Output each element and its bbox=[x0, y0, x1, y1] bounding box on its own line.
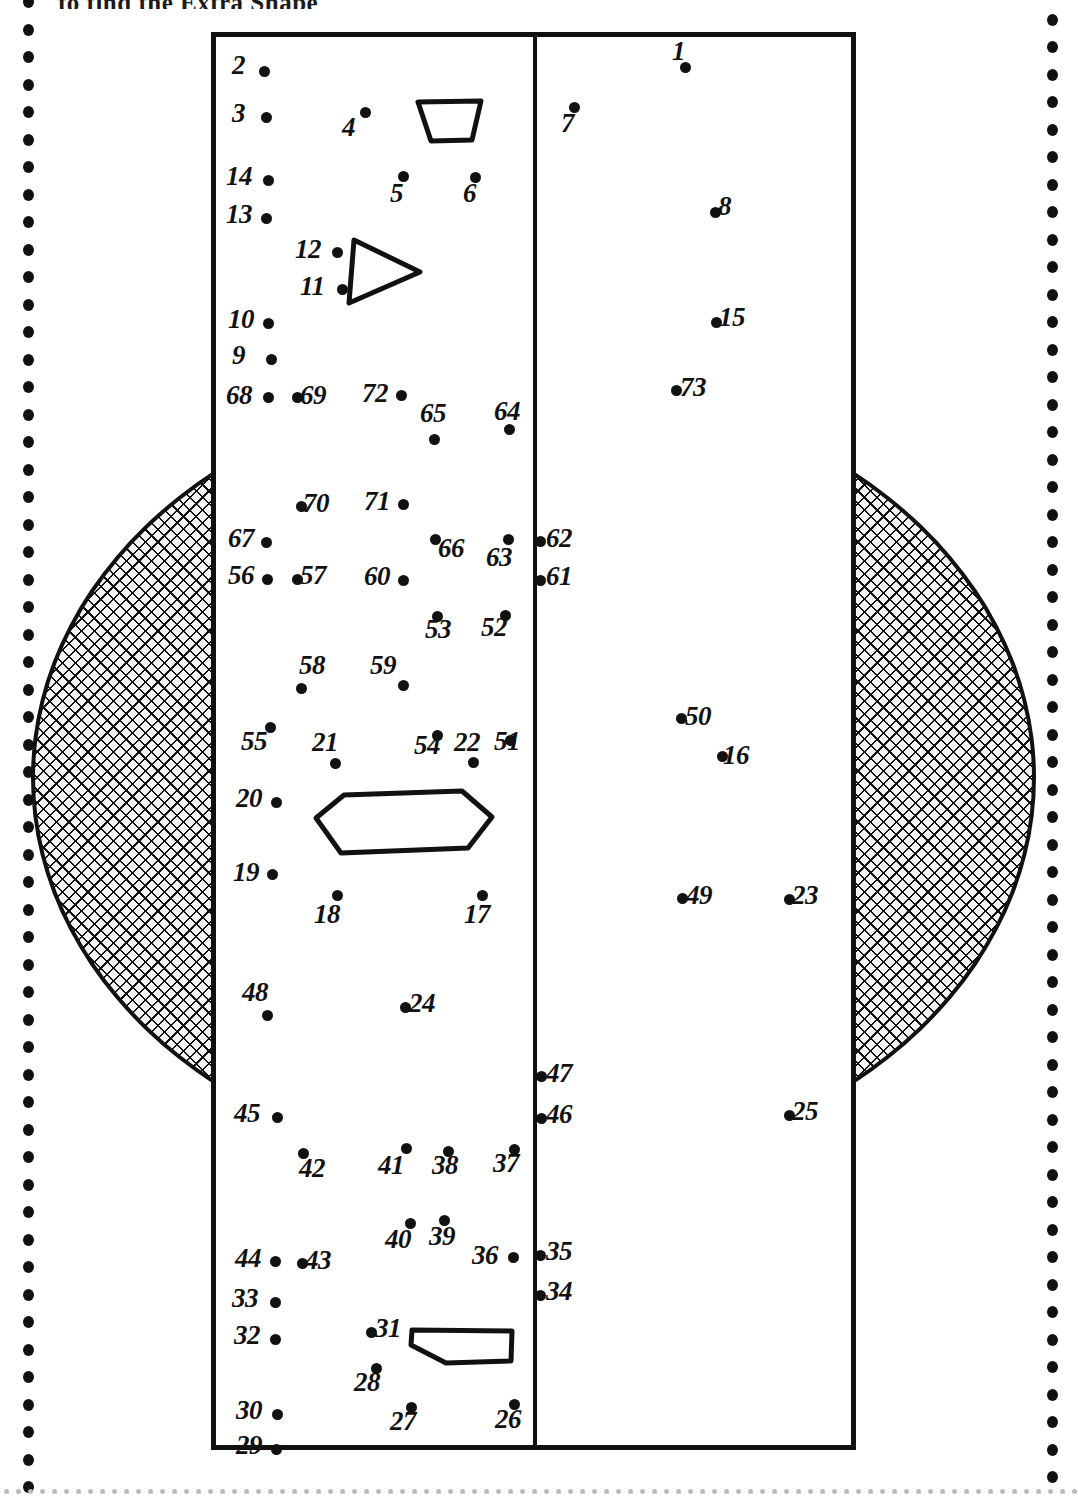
dot-number-label: 14 bbox=[226, 161, 252, 192]
dot-marker bbox=[263, 175, 274, 186]
dot-marker bbox=[261, 537, 272, 548]
dot-number-label: 24 bbox=[409, 988, 435, 1019]
dot-number-label: 12 bbox=[295, 234, 321, 265]
dot-marker bbox=[271, 797, 282, 808]
dot-number-label: 7 bbox=[561, 108, 574, 139]
dot-marker bbox=[266, 354, 277, 365]
dot-number-label: 68 bbox=[226, 380, 252, 411]
dot-number-label: 61 bbox=[546, 561, 572, 592]
dot-number-label: 10 bbox=[228, 304, 254, 335]
dot-number-label: 17 bbox=[464, 899, 490, 930]
dot-number-label: 41 bbox=[378, 1150, 404, 1181]
dot-marker bbox=[270, 1297, 281, 1308]
dot-number-label: 43 bbox=[305, 1245, 331, 1276]
dot-number-label: 67 bbox=[228, 523, 254, 554]
dot-number-label: 52 bbox=[481, 612, 507, 643]
dot-number-label: 58 bbox=[299, 650, 325, 681]
dot-number-label: 70 bbox=[303, 488, 329, 519]
dot-marker bbox=[262, 574, 273, 585]
dot-number-label: 66 bbox=[438, 533, 464, 564]
dot-number-label: 32 bbox=[234, 1320, 260, 1351]
dot-number-label: 65 bbox=[420, 398, 446, 429]
dot-number-label: 20 bbox=[236, 783, 262, 814]
dot-number-label: 55 bbox=[241, 726, 267, 757]
dot-marker bbox=[398, 575, 409, 586]
dot-marker bbox=[360, 107, 371, 118]
dot-number-label: 28 bbox=[354, 1367, 380, 1398]
dot-number-label: 40 bbox=[385, 1224, 411, 1255]
dot-number-label: 9 bbox=[232, 340, 245, 371]
dot-number-label: 35 bbox=[546, 1236, 572, 1267]
dot-number-label: 49 bbox=[686, 880, 712, 911]
dot-marker bbox=[267, 869, 278, 880]
dot-marker bbox=[535, 575, 546, 586]
dot-marker bbox=[259, 66, 270, 77]
dot-number-label: 37 bbox=[493, 1148, 519, 1179]
dot-marker bbox=[429, 434, 440, 445]
dot-number-label: 47 bbox=[546, 1058, 572, 1089]
dot-marker bbox=[330, 758, 341, 769]
dot-number-label: 22 bbox=[454, 727, 480, 758]
dot-marker bbox=[270, 1256, 281, 1267]
dot-number-label: 13 bbox=[226, 199, 252, 230]
dot-number-label: 73 bbox=[680, 372, 706, 403]
dot-number-label: 1 bbox=[672, 36, 685, 67]
dot-number-label: 23 bbox=[792, 880, 818, 911]
dot-marker bbox=[296, 683, 307, 694]
dot-number-label: 62 bbox=[546, 523, 572, 554]
dot-marker bbox=[263, 392, 274, 403]
dot-number-label: 71 bbox=[364, 486, 390, 517]
puzzle-page: to find the Extra Shape 1234567891011121… bbox=[0, 0, 1078, 1498]
dot-marker bbox=[261, 213, 272, 224]
dot-marker bbox=[535, 1290, 546, 1301]
dot-number-label: 63 bbox=[486, 542, 512, 573]
dot-marker bbox=[272, 1409, 283, 1420]
dot-number-label: 50 bbox=[685, 701, 711, 732]
dot-number-label: 33 bbox=[232, 1283, 258, 1314]
dot-marker bbox=[535, 536, 546, 547]
dot-number-label: 51 bbox=[494, 726, 520, 757]
dot-number-label: 19 bbox=[233, 857, 259, 888]
dot-number-label: 29 bbox=[236, 1430, 262, 1461]
dot-marker bbox=[270, 1334, 281, 1345]
dot-number-label: 57 bbox=[300, 560, 326, 591]
dot-number-label: 21 bbox=[312, 727, 338, 758]
dot-number-label: 46 bbox=[546, 1099, 572, 1130]
dot-marker bbox=[272, 1112, 283, 1123]
dot-number-label: 48 bbox=[242, 977, 268, 1008]
dot-marker bbox=[535, 1250, 546, 1261]
dot-number-label: 5 bbox=[390, 178, 403, 209]
drawn-shapes-layer bbox=[0, 0, 1078, 1498]
dot-number-label: 8 bbox=[718, 191, 731, 222]
dot-number-label: 54 bbox=[414, 730, 440, 761]
dot-number-label: 60 bbox=[364, 561, 390, 592]
dot-marker bbox=[271, 1444, 282, 1455]
dot-marker bbox=[261, 112, 272, 123]
dot-number-label: 39 bbox=[429, 1221, 455, 1252]
dot-marker bbox=[398, 680, 409, 691]
dot-number-label: 38 bbox=[432, 1150, 458, 1181]
dot-number-label: 59 bbox=[370, 650, 396, 681]
dot-marker bbox=[337, 284, 348, 295]
dot-number-label: 18 bbox=[314, 899, 340, 930]
dot-number-label: 16 bbox=[723, 740, 749, 771]
dot-marker bbox=[396, 390, 407, 401]
dot-number-label: 36 bbox=[472, 1240, 498, 1271]
dot-marker bbox=[398, 499, 409, 510]
dot-number-label: 56 bbox=[228, 560, 254, 591]
dot-number-label: 6 bbox=[463, 178, 476, 209]
dot-marker bbox=[468, 757, 479, 768]
dot-number-label: 42 bbox=[299, 1153, 325, 1184]
boat-quadrilateral bbox=[411, 1330, 512, 1363]
dot-number-label: 27 bbox=[390, 1406, 416, 1437]
dot-marker bbox=[332, 247, 343, 258]
dot-number-label: 31 bbox=[375, 1313, 401, 1344]
dot-number-label: 3 bbox=[232, 98, 245, 129]
dot-number-label: 44 bbox=[235, 1243, 261, 1274]
octagon-oblong bbox=[316, 791, 492, 853]
dot-number-label: 34 bbox=[546, 1276, 572, 1307]
dot-number-label: 15 bbox=[719, 302, 745, 333]
dot-marker bbox=[262, 1010, 273, 1021]
dot-number-label: 64 bbox=[494, 396, 520, 427]
dot-number-label: 72 bbox=[362, 378, 388, 409]
